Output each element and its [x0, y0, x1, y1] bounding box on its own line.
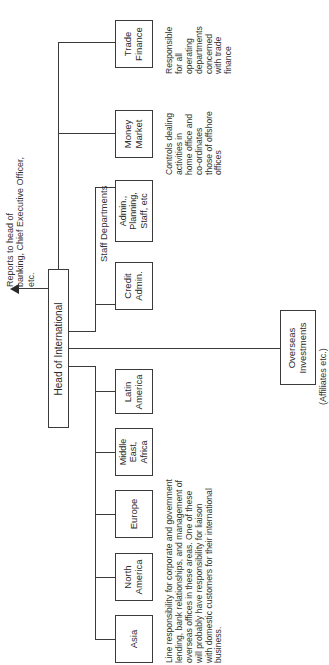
latin-america-connector — [95, 391, 115, 392]
north-america-label: North America — [123, 560, 145, 595]
money-market-note: Controls dealing activities in home offi… — [165, 111, 224, 175]
trade-finance-connector — [58, 42, 115, 43]
money-market-label: Money Market — [123, 119, 145, 148]
money-market-connector — [58, 133, 115, 134]
europe-box: Europe — [115, 490, 153, 538]
spine-line — [58, 42, 59, 269]
europe-label: Europe — [129, 499, 140, 530]
staff-departments-label: Staff Departments — [99, 186, 110, 262]
reports-to-line — [18, 288, 48, 289]
trade-finance-label: Trade Finance — [123, 27, 145, 61]
overseas-connector — [68, 348, 280, 349]
head-of-international-box: Head of International — [48, 269, 69, 428]
admin-planning-box: Admin., Planning, Staff, etc — [115, 180, 153, 242]
credit-admin-label: Credit Admin. — [123, 271, 145, 301]
asia-box: Asia — [115, 615, 153, 663]
head-label: Head of International — [53, 302, 65, 395]
regions-connector — [68, 366, 95, 367]
latin-america-box: Latin America — [115, 369, 153, 414]
north-america-box: North America — [115, 553, 153, 601]
admin-planning-label: Admin., Planning, Staff, etc — [118, 192, 149, 230]
middle-east-connector — [95, 452, 115, 453]
middle-east-africa-label: Middle East, Africa — [118, 439, 149, 466]
overseas-investments-box: Overseas Investments — [280, 310, 316, 385]
affiliates-note: (Affiliates etc.) — [318, 348, 328, 405]
credit-admin-box: Credit Admin. — [115, 262, 153, 310]
money-market-box: Money Market — [115, 110, 153, 158]
europe-connector — [95, 514, 115, 515]
asia-label: Asia — [129, 630, 140, 648]
regions-bus — [95, 366, 96, 640]
trade-finance-note: Responsible for all operating department… — [165, 26, 234, 74]
north-america-connector — [95, 577, 115, 578]
regions-note: Line responsibility for corporate and go… — [165, 479, 224, 663]
middle-east-africa-box: Middle East, Africa — [115, 428, 153, 476]
trade-finance-box: Trade Finance — [115, 20, 153, 68]
asia-connector — [95, 639, 115, 640]
overseas-investments-label: Overseas Investments — [287, 322, 309, 373]
credit-connector — [95, 304, 115, 305]
latin-america-label: Latin America — [123, 374, 145, 409]
reports-to-text: Reports to head of banking, Chief Execut… — [5, 157, 36, 287]
staff-bus — [95, 187, 96, 332]
staff-connector — [68, 331, 95, 332]
